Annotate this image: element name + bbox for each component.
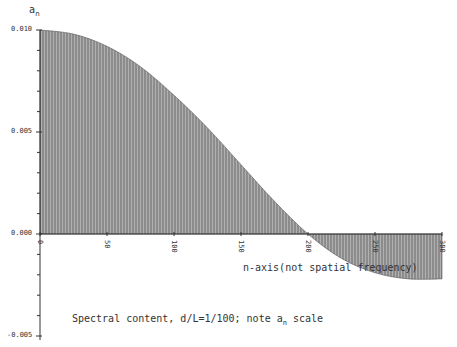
y-tick-label: 0.005 [11, 127, 32, 135]
x-tick-label: 50 [103, 240, 111, 248]
y-tick-label: -0.005 [7, 331, 32, 339]
x-tick-label: 150 [237, 240, 245, 253]
x-tick-label: 200 [304, 240, 312, 253]
y-tick-label: 0.000 [11, 229, 32, 237]
x-tick-label: 250 [371, 240, 379, 253]
x-axis-title: n-axis(not spatial frequency) [243, 262, 418, 273]
x-tick-label: 0 [36, 240, 44, 244]
y-tick-label: 0.010 [11, 25, 32, 33]
y-axis-title: an [29, 4, 40, 18]
x-tick-label: 300 [438, 240, 446, 253]
chart-caption: Spectral content, d/L=1/100; note an sca… [72, 313, 323, 327]
chart-canvas [0, 0, 457, 347]
x-tick-label: 100 [170, 240, 178, 253]
